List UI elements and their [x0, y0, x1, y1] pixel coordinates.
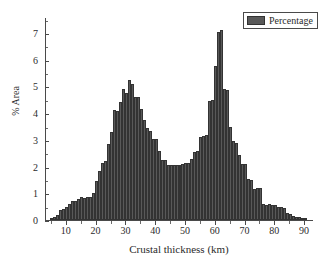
y-tick-label: 3 — [18, 136, 38, 146]
x-tick-minor — [289, 221, 290, 224]
bar — [304, 218, 307, 220]
y-tick-label: 4 — [18, 109, 38, 119]
y-tick-label: 5 — [18, 82, 38, 92]
x-tick-minor — [111, 221, 112, 224]
legend: Percentage — [243, 12, 318, 29]
x-tick-label: 60 — [202, 226, 228, 236]
x-tick-label: 30 — [112, 226, 138, 236]
x-tick-minor — [170, 221, 171, 224]
plot-area — [45, 18, 313, 221]
x-tick-minor — [51, 221, 52, 224]
y-tick-label: 0 — [18, 216, 38, 226]
y-tick-mark — [45, 221, 49, 222]
y-tick-label: 6 — [18, 56, 38, 66]
x-tick-minor — [81, 221, 82, 224]
y-tick-label: 1 — [18, 189, 38, 199]
x-tick-label: 90 — [291, 226, 317, 236]
x-tick-label: 40 — [142, 226, 168, 236]
legend-label-percentage: Percentage — [269, 15, 313, 26]
x-tick-label: 10 — [53, 226, 79, 236]
x-tick-label: 70 — [232, 226, 258, 236]
x-tick-label: 80 — [261, 226, 287, 236]
x-tick-minor — [200, 221, 201, 224]
histogram-chart: % Area 01234567 102030405060708090 Crust… — [0, 0, 334, 269]
y-tick-label: 2 — [18, 163, 38, 173]
x-axis-label: Crustal thickness (km) — [45, 243, 313, 255]
x-tick-label: 20 — [83, 226, 109, 236]
x-tick-minor — [259, 221, 260, 224]
y-tick-label: 7 — [18, 29, 38, 39]
x-tick-minor — [140, 221, 141, 224]
legend-swatch-percentage — [247, 16, 265, 25]
x-tick-minor — [230, 221, 231, 224]
y-axis-label: % Area — [11, 71, 21, 131]
bars-layer — [46, 18, 313, 220]
x-tick-label: 50 — [172, 226, 198, 236]
